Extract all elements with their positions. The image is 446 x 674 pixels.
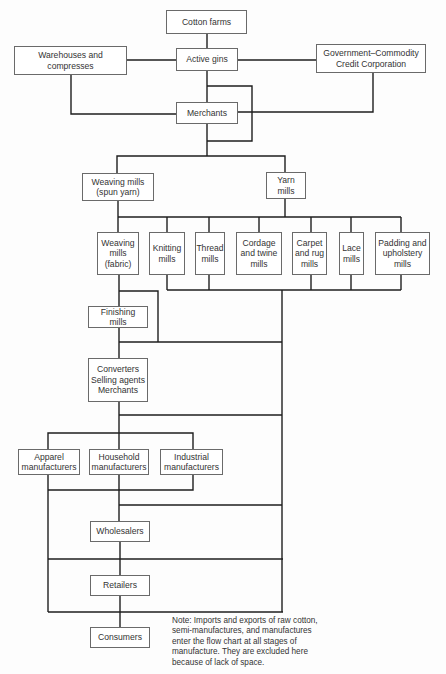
node-yarn-mills: Yarn mills [266,172,306,199]
node-carpet-rug-mills: Carpet and rug mills [292,232,327,275]
node-weaving-mills-fabric: Weaving mills (fabric) [97,232,139,275]
node-cordage-twine-mills: Cordage and twine mills [236,232,282,275]
node-household-manufacturers: Household manufacturers [89,449,149,475]
cotton-flow-chart: Cotton farms Active gins Warehouses and … [0,0,446,674]
node-merchants: Merchants [176,102,238,124]
node-warehouses: Warehouses and compresses [14,46,127,75]
node-knitting-mills: Knitting mills [149,232,185,275]
node-lace-mills: Lace mills [339,232,364,275]
node-wholesalers: Wholesalers [90,521,150,542]
node-cotton-farms: Cotton farms [166,10,247,34]
node-government-ccc: Government–Commodity Credit Corporation [316,44,426,73]
node-apparel-manufacturers: Apparel manufacturers [18,449,80,475]
footnote: Note: Imports and exports of raw cotton,… [172,616,362,668]
node-consumers: Consumers [90,627,150,648]
node-finishing-mills: Finishing mills [88,306,148,328]
node-industrial-manufacturers: Industrial manufacturers [160,449,223,475]
node-padding-upholstery-mills: Padding and upholstery mills [375,232,430,275]
node-thread-mills: Thread mills [195,232,225,275]
node-active-gins: Active gins [176,48,238,71]
node-converters: Converters Selling agents Merchants [88,358,148,402]
node-retailers: Retailers [90,575,150,596]
node-weaving-mills-spun-yarn: Weaving mills (spun yarn) [82,173,154,201]
